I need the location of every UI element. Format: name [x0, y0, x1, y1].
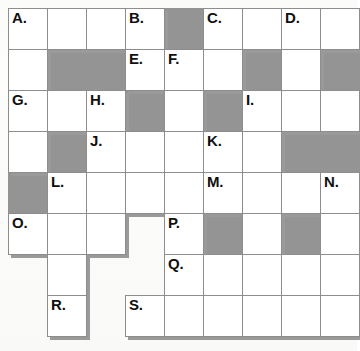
crossword-cell[interactable]: K.	[203, 131, 243, 173]
crossword-empty-space	[8, 254, 48, 296]
crossword-empty-space	[125, 213, 165, 255]
crossword-cell[interactable]: B.	[125, 8, 165, 50]
crossword-cell[interactable]	[320, 8, 360, 50]
clue-label-r: R.	[51, 296, 66, 313]
clue-label-h: H.	[90, 91, 105, 108]
crossword-cell[interactable]: I.	[242, 90, 282, 132]
clue-label-k: K.	[207, 132, 222, 149]
crossword-cell[interactable]	[242, 295, 282, 337]
crossword-cell[interactable]	[320, 295, 360, 337]
crossword-blocked-cell	[320, 49, 360, 91]
crossword-cell[interactable]	[203, 254, 243, 296]
crossword-cell[interactable]	[281, 172, 321, 214]
crossword-cell[interactable]: N.	[320, 172, 360, 214]
crossword-cell[interactable]	[86, 172, 126, 214]
crossword-empty-space	[86, 254, 126, 296]
crossword-cell[interactable]: A.	[8, 8, 48, 50]
crossword-cell[interactable]	[86, 213, 126, 255]
crossword-cell[interactable]: H.	[86, 90, 126, 132]
crossword-blocked-cell	[164, 8, 204, 50]
clue-label-q: Q.	[168, 255, 183, 272]
clue-label-e: E.	[129, 50, 143, 67]
crossword-cell[interactable]	[281, 295, 321, 337]
clue-label-n: N.	[324, 173, 339, 190]
crossword-cell[interactable]: O.	[8, 213, 48, 255]
crossword-cell[interactable]	[242, 172, 282, 214]
clue-label-f: F.	[168, 50, 179, 67]
crossword-cell[interactable]: P.	[164, 213, 204, 255]
crossword-cell[interactable]: Q.	[164, 254, 204, 296]
crossword-blocked-cell	[320, 131, 360, 173]
crossword-cell[interactable]	[203, 295, 243, 337]
crossword-cell[interactable]	[86, 8, 126, 50]
crossword-cell[interactable]	[8, 49, 48, 91]
crossword-empty-space	[8, 295, 48, 337]
crossword-cell[interactable]: S.	[125, 295, 165, 337]
clue-label-g: G.	[12, 91, 27, 108]
clue-label-a: A.	[12, 9, 27, 26]
crossword-cell[interactable]: L.	[47, 172, 87, 214]
crossword-cell[interactable]	[242, 8, 282, 50]
clue-label-m: M.	[207, 173, 223, 190]
clue-label-l: L.	[51, 173, 64, 190]
crossword-cell[interactable]	[281, 49, 321, 91]
crossword-cell[interactable]	[47, 254, 87, 296]
crossword-cell[interactable]	[281, 90, 321, 132]
clue-label-c: C.	[207, 9, 222, 26]
crossword-cell[interactable]: D.	[281, 8, 321, 50]
crossword-cell[interactable]	[320, 254, 360, 296]
crossword-blocked-cell	[281, 213, 321, 255]
crossword-cell[interactable]: G.	[8, 90, 48, 132]
crossword-empty-space	[125, 254, 165, 296]
clue-label-j: J.	[90, 132, 102, 149]
crossword-cell[interactable]: E.	[125, 49, 165, 91]
crossword-blocked-cell	[125, 90, 165, 132]
crossword-blocked-cell	[86, 49, 126, 91]
clue-label-o: O.	[12, 214, 27, 231]
crossword-cell[interactable]	[281, 254, 321, 296]
crossword-cell[interactable]	[8, 131, 48, 173]
crossword-cell[interactable]	[47, 213, 87, 255]
crossword-blocked-cell	[47, 131, 87, 173]
clue-label-i: I.	[246, 91, 254, 108]
clue-label-d: D.	[285, 9, 300, 26]
crossword-cell[interactable]: C.	[203, 8, 243, 50]
crossword-cell[interactable]	[320, 213, 360, 255]
crossword-cell[interactable]	[125, 172, 165, 214]
crossword-cell[interactable]	[164, 131, 204, 173]
clue-label-s: S.	[129, 296, 143, 313]
crossword-cell[interactable]	[164, 295, 204, 337]
crossword-blocked-cell	[8, 172, 48, 214]
crossword-cell[interactable]	[47, 90, 87, 132]
crossword-cell[interactable]	[164, 172, 204, 214]
clue-label-p: P.	[168, 214, 180, 231]
clue-label-b: B.	[129, 9, 144, 26]
crossword-cell[interactable]	[125, 131, 165, 173]
crossword-empty-space	[86, 295, 126, 337]
crossword-cell[interactable]	[320, 90, 360, 132]
crossword-cell[interactable]	[242, 131, 282, 173]
crossword-cell[interactable]: M.	[203, 172, 243, 214]
crossword-cell[interactable]: J.	[86, 131, 126, 173]
crossword-cell[interactable]	[242, 254, 282, 296]
crossword-blocked-cell	[242, 49, 282, 91]
crossword-cell[interactable]	[47, 8, 87, 50]
crossword-cell[interactable]: F.	[164, 49, 204, 91]
crossword-blocked-cell	[281, 131, 321, 173]
crossword-blocked-cell	[47, 49, 87, 91]
crossword-blocked-cell	[203, 213, 243, 255]
crossword-cell[interactable]	[242, 213, 282, 255]
crossword-cell[interactable]	[164, 90, 204, 132]
crossword-cell[interactable]: R.	[47, 295, 87, 337]
crossword-cell[interactable]	[203, 49, 243, 91]
crossword-blocked-cell	[203, 90, 243, 132]
